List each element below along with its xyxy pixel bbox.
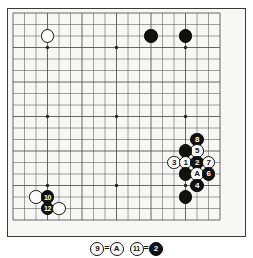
- star-point: [184, 46, 187, 49]
- star-point: [46, 184, 49, 187]
- black-stone-6[interactable]: 6: [202, 167, 216, 181]
- star-point: [184, 115, 187, 118]
- star-point: [115, 184, 118, 187]
- caption-move-stone: 11: [130, 242, 144, 256]
- caption-target-stone: 2: [149, 242, 163, 256]
- caption-equals-sign: =: [144, 244, 149, 253]
- black-stone-top-right-a[interactable]: [144, 29, 158, 43]
- black-stone-4[interactable]: 4: [190, 179, 204, 193]
- go-board[interactable]: 853127A641012: [7, 8, 246, 237]
- white-stone-lower-left-b[interactable]: [52, 202, 66, 216]
- star-point: [46, 115, 49, 118]
- caption-item: 9=A: [90, 242, 123, 256]
- star-point: [115, 46, 118, 49]
- caption-bar: 9=A11=2: [0, 239, 253, 258]
- star-point: [184, 184, 187, 187]
- caption-equals-sign: =: [104, 244, 109, 253]
- star-point: [46, 46, 49, 49]
- star-point: [115, 115, 118, 118]
- white-stone-upper-left[interactable]: [41, 29, 55, 43]
- caption-move-stone: 9: [90, 242, 104, 256]
- black-stone-bottom-right[interactable]: [179, 190, 193, 204]
- caption-target-stone: A: [110, 242, 124, 256]
- caption-item: 11=2: [130, 242, 163, 256]
- go-diagram-figure: 853127A641012 9=A11=2: [0, 0, 253, 258]
- black-stone-top-right-b[interactable]: [179, 29, 193, 43]
